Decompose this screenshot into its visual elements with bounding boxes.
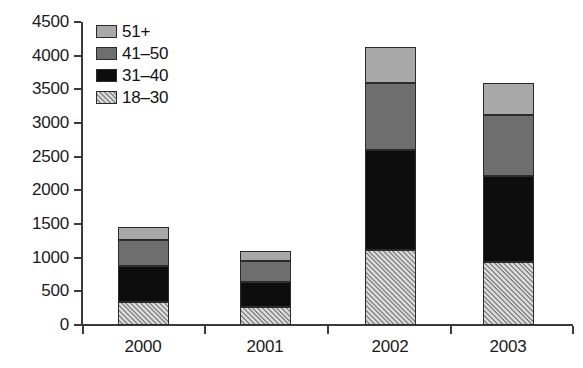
y-axis-tick [74, 55, 81, 57]
y-axis-tick [74, 223, 81, 225]
bar-segment[interactable] [483, 176, 534, 262]
x-axis-tick-label: 2003 [463, 338, 553, 356]
y-axis-tick-label: 2000 [5, 181, 69, 198]
x-axis-tick [82, 326, 84, 334]
legend-item[interactable]: 51+ [96, 20, 168, 42]
y-axis-line [81, 22, 83, 326]
bar-group[interactable] [118, 227, 169, 325]
y-axis-tick-label: 0 [5, 316, 69, 333]
legend-item[interactable]: 31–40 [96, 64, 168, 86]
y-axis-tick-label: 1500 [5, 215, 69, 232]
y-axis-tick-label: 500 [5, 282, 69, 299]
legend-item[interactable]: 18–30 [96, 86, 168, 108]
bar-segment[interactable] [118, 302, 169, 325]
y-axis-tick-label: 3000 [5, 114, 69, 131]
y-axis-tick [74, 122, 81, 124]
y-axis-tick-label: 2500 [5, 148, 69, 165]
bar-group[interactable] [240, 251, 291, 325]
bar-segment[interactable] [365, 83, 416, 150]
bar-segment[interactable] [240, 282, 291, 307]
legend-item-label: 31–40 [122, 67, 168, 84]
y-axis-tick-label: 1000 [5, 249, 69, 266]
bar-segment[interactable] [365, 250, 416, 325]
y-axis-tick [74, 88, 81, 90]
y-axis-tick [74, 189, 81, 191]
bar-segment[interactable] [365, 150, 416, 250]
y-axis-tick [74, 21, 81, 23]
y-axis-tick [74, 257, 81, 259]
legend-item-label: 18–30 [122, 89, 168, 106]
x-axis-tick [204, 326, 206, 334]
x-axis-tick [450, 326, 452, 334]
y-axis-tick [74, 156, 81, 158]
bar-segment[interactable] [483, 262, 534, 325]
bar-group[interactable] [365, 47, 416, 325]
x-axis-tick-label: 2000 [98, 338, 188, 356]
light-gray-swatch [96, 25, 117, 38]
bar-segment[interactable] [118, 227, 169, 240]
black-swatch [96, 69, 117, 82]
chart-legend: 51+41–5031–4018–30 [96, 20, 168, 108]
y-axis-tick-label: 3500 [5, 80, 69, 97]
stacked-bar-chart: 050010001500200025003000350040004500 200… [0, 0, 583, 368]
bar-segment[interactable] [365, 47, 416, 83]
x-axis-tick [327, 326, 329, 334]
bar-segment[interactable] [240, 307, 291, 325]
bar-segment[interactable] [240, 251, 291, 261]
bar-segment[interactable] [483, 83, 534, 115]
x-axis-tick [572, 326, 574, 334]
bar-segment[interactable] [240, 261, 291, 282]
bar-segment[interactable] [118, 240, 169, 266]
y-axis-tick-label: 4000 [5, 47, 69, 64]
legend-item-label: 41–50 [122, 45, 168, 62]
bar-segment[interactable] [118, 266, 169, 302]
x-axis-tick-label: 2001 [220, 338, 310, 356]
legend-item[interactable]: 41–50 [96, 42, 168, 64]
bar-segment[interactable] [483, 115, 534, 176]
y-axis-tick-label: 4500 [5, 13, 69, 30]
x-axis-tick-label: 2002 [345, 338, 435, 356]
hatched-swatch [96, 91, 117, 104]
y-axis-tick [74, 290, 81, 292]
y-axis-tick [74, 324, 81, 326]
legend-item-label: 51+ [122, 23, 150, 40]
bar-group[interactable] [483, 83, 534, 325]
medium-gray-swatch [96, 47, 117, 60]
